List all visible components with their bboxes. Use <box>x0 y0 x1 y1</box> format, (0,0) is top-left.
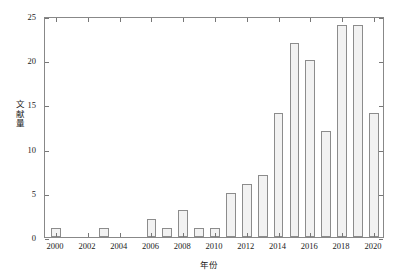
y-axis-tick-label: 15 <box>28 100 37 110</box>
x-axis-tick-mark <box>247 18 248 22</box>
x-axis-tick-mark <box>342 233 343 237</box>
bar <box>305 60 315 237</box>
x-axis-tick-mark <box>374 18 375 22</box>
x-axis-tick-mark <box>310 233 311 237</box>
bar <box>353 25 363 237</box>
y-axis-tick-label: 0 <box>32 233 36 243</box>
y-axis-tick-mark <box>45 62 49 63</box>
x-axis-tick-mark <box>120 233 121 237</box>
y-axis-tick-mark <box>379 195 383 196</box>
x-axis-tick-mark <box>56 18 57 22</box>
bar <box>194 228 204 237</box>
x-axis-tick-mark <box>56 233 57 237</box>
x-axis-tick-label: 2004 <box>110 241 127 251</box>
y-axis-tick-mark <box>45 18 49 19</box>
bar <box>274 113 284 237</box>
x-axis-tick-mark <box>88 18 89 22</box>
y-axis-tick-mark <box>379 18 383 19</box>
x-axis-tick-label: 2008 <box>174 241 191 251</box>
x-axis-tick-label: 2020 <box>364 241 381 251</box>
x-axis-tick-label: 2006 <box>142 241 159 251</box>
x-axis-tick-label: 2010 <box>206 241 223 251</box>
x-axis-tick-label: 2014 <box>269 241 286 251</box>
x-axis-tick-label: 2018 <box>333 241 350 251</box>
y-axis-tick-mark <box>379 62 383 63</box>
x-axis-tick-mark <box>342 18 343 22</box>
x-axis-tick-mark <box>183 233 184 237</box>
x-axis-tick-label: 2016 <box>301 241 318 251</box>
x-axis-tick-mark <box>183 18 184 22</box>
x-axis-tick-mark <box>120 18 121 22</box>
bar <box>162 228 172 237</box>
bar <box>369 113 379 237</box>
y-axis-tick-mark <box>45 239 49 240</box>
bar <box>99 228 109 237</box>
plot-area <box>44 17 384 238</box>
y-axis-tick-labels: 0510152025 <box>0 17 40 238</box>
x-axis-tick-labels: 2000200220042006200820102012201420162018… <box>44 241 384 255</box>
x-axis-tick-mark <box>215 233 216 237</box>
x-axis-tick-label: 2000 <box>47 241 64 251</box>
x-axis-tick-mark <box>279 233 280 237</box>
y-axis-tick-label: 5 <box>32 189 36 199</box>
y-axis-tick-mark <box>379 151 383 152</box>
bar <box>290 43 300 237</box>
y-axis-tick-label: 10 <box>28 145 37 155</box>
x-axis-tick-mark <box>310 18 311 22</box>
x-axis-tick-mark <box>374 233 375 237</box>
y-axis-tick-label: 25 <box>28 12 37 22</box>
y-axis-tick-mark <box>45 195 49 196</box>
bar <box>321 131 331 237</box>
x-axis-tick-mark <box>88 233 89 237</box>
x-axis-tick-mark <box>279 18 280 22</box>
bar <box>337 25 347 237</box>
x-axis-tick-mark <box>215 18 216 22</box>
bar <box>258 175 268 237</box>
bar <box>226 193 236 237</box>
y-axis-tick-mark <box>45 151 49 152</box>
y-axis-tick-mark <box>379 106 383 107</box>
x-axis-title: 年份 <box>0 258 417 270</box>
x-axis-tick-mark <box>247 233 248 237</box>
bar-chart-figure: 文献量 0510152025 2000200220042006200820102… <box>0 0 417 277</box>
bar <box>242 184 252 237</box>
y-axis-tick-mark <box>45 106 49 107</box>
x-axis-tick-mark <box>151 18 152 22</box>
x-axis-tick-label: 2002 <box>78 241 95 251</box>
y-axis-tick-label: 20 <box>28 56 37 66</box>
x-axis-tick-label: 2012 <box>237 241 254 251</box>
y-axis-tick-mark <box>379 239 383 240</box>
x-axis-tick-mark <box>151 233 152 237</box>
bar-series <box>45 18 383 237</box>
